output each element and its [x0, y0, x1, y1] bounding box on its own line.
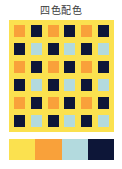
pattern-chip — [81, 97, 92, 109]
pattern-chip — [98, 115, 109, 127]
page-title: 四色配色 — [0, 5, 122, 17]
pattern-cell — [45, 58, 62, 76]
pattern-cell — [45, 112, 62, 130]
pattern-cell — [95, 94, 112, 112]
pattern-cell — [95, 40, 112, 58]
pattern-chip — [98, 25, 109, 37]
pattern-cell — [45, 94, 62, 112]
pattern-chip — [31, 43, 42, 55]
pattern-cell — [62, 58, 79, 76]
pattern-chip — [98, 79, 109, 91]
pattern-cell — [11, 58, 28, 76]
pattern-chip — [14, 25, 25, 37]
pattern-chip — [14, 97, 25, 109]
pattern-chip — [31, 25, 42, 37]
color-pattern-grid — [9, 20, 114, 132]
pattern-chip — [14, 79, 25, 91]
pattern-cell — [95, 76, 112, 94]
pattern-cell — [28, 58, 45, 76]
pattern-cell — [95, 112, 112, 130]
pattern-cell — [45, 22, 62, 40]
pattern-chip — [48, 97, 59, 109]
pattern-cell — [95, 22, 112, 40]
color-scheme-card: 四色配色 — [0, 0, 122, 169]
pattern-cell — [78, 58, 95, 76]
pattern-cell — [28, 40, 45, 58]
pattern-cell — [11, 76, 28, 94]
pattern-chip — [81, 79, 92, 91]
pattern-cell — [62, 76, 79, 94]
palette-swatch-orange[interactable] — [35, 139, 61, 160]
pattern-cell — [28, 22, 45, 40]
pattern-chip — [81, 61, 92, 73]
pattern-cell — [95, 58, 112, 76]
palette-swatch-navy[interactable] — [88, 139, 114, 160]
pattern-chip — [31, 115, 42, 127]
pattern-cell — [11, 22, 28, 40]
pattern-chip — [48, 115, 59, 127]
pattern-cell — [45, 76, 62, 94]
pattern-chip — [14, 61, 25, 73]
pattern-chip — [14, 43, 25, 55]
pattern-chip — [64, 79, 75, 91]
pattern-chip — [31, 79, 42, 91]
pattern-chip — [81, 43, 92, 55]
pattern-cell — [78, 112, 95, 130]
pattern-cell — [78, 40, 95, 58]
pattern-cell — [62, 112, 79, 130]
pattern-cell — [45, 40, 62, 58]
pattern-chip — [14, 115, 25, 127]
pattern-chip — [64, 97, 75, 109]
pattern-chip — [31, 97, 42, 109]
pattern-cell — [28, 94, 45, 112]
palette-swatch-light-blue[interactable] — [62, 139, 88, 160]
pattern-chip — [48, 61, 59, 73]
pattern-cell — [11, 112, 28, 130]
pattern-cell — [28, 112, 45, 130]
pattern-chip — [48, 79, 59, 91]
pattern-cell — [62, 94, 79, 112]
pattern-cell — [62, 22, 79, 40]
pattern-chip — [98, 61, 109, 73]
pattern-chip — [64, 115, 75, 127]
pattern-chip — [48, 25, 59, 37]
palette-strip — [9, 139, 114, 160]
pattern-chip — [81, 25, 92, 37]
pattern-chip — [64, 25, 75, 37]
pattern-chip — [64, 61, 75, 73]
pattern-chip — [81, 115, 92, 127]
pattern-cell — [78, 76, 95, 94]
pattern-cell — [11, 40, 28, 58]
pattern-chip — [48, 43, 59, 55]
pattern-cell — [28, 76, 45, 94]
pattern-chip — [98, 97, 109, 109]
pattern-chip — [98, 43, 109, 55]
pattern-cell — [78, 94, 95, 112]
pattern-cell — [11, 94, 28, 112]
palette-swatch-yellow[interactable] — [9, 139, 35, 160]
pattern-cell — [78, 22, 95, 40]
pattern-chip — [31, 61, 42, 73]
pattern-chip — [64, 43, 75, 55]
pattern-cell — [62, 40, 79, 58]
